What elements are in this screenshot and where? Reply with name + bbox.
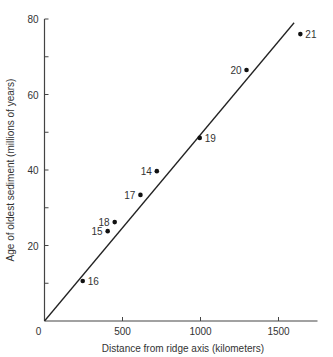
data-point-dot [197,136,202,141]
data-point-dot [138,193,143,198]
y-tick-label: 80 [27,14,39,25]
data-point-label: 17 [124,190,136,201]
x-tick-label: 500 [114,326,131,337]
data-point-label: 14 [141,166,153,177]
data-point-dot [244,68,249,73]
x-tick-label: 1000 [189,326,212,337]
data-point-label: 20 [230,65,242,76]
axis-ticks: 20406080050010001500 [27,14,290,337]
data-point-label: 18 [99,217,111,228]
axes [45,19,318,321]
fit-line [45,23,295,321]
data-point-dot [105,229,110,234]
data-point-dot [112,220,117,225]
data-points: 1615181714192021 [80,29,316,287]
data-point-label: 21 [305,29,317,40]
data-point-dot [298,32,303,37]
data-point-dot [155,169,160,174]
y-tick-label: 40 [27,165,39,176]
origin-label: 0 [36,326,42,337]
regression-line [45,23,295,321]
data-point-dot [80,279,85,284]
scatter-chart: 20406080050010001500 1615181714192021 Di… [0,0,333,357]
y-tick-label: 60 [27,90,39,101]
y-axis-label: Age of oldest sediment (millions of year… [5,79,16,262]
x-axis-label: Distance from ridge axis (kilometers) [102,343,264,354]
y-tick-label: 20 [27,241,39,252]
data-point-label: 19 [205,133,217,144]
data-point-label: 16 [88,276,100,287]
x-tick-label: 1500 [267,326,290,337]
